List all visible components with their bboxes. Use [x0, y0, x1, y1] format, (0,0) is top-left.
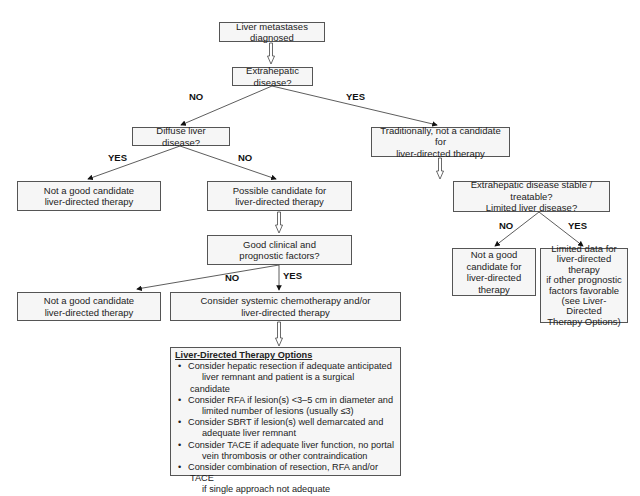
- therapy-option-tace: •Consider TACE if adequate liver functio…: [175, 440, 396, 462]
- node-not-good-3-line1: Not a good: [471, 249, 517, 261]
- therapy-option-sbrt: •Consider SBRT if lesion(s) well demarca…: [175, 417, 396, 439]
- edge-label-factors-yes: YES: [283, 270, 302, 281]
- node-possible-candidate: Possible candidate for liver-directed th…: [207, 181, 352, 211]
- node-not-good-candidate-2: Not a good candidate liver-directed ther…: [17, 292, 161, 321]
- option-line: if single approach not adequate: [190, 484, 330, 494]
- option-line: Consider TACE if adequate liver function…: [188, 440, 394, 450]
- node-not-good-3-line2: candidate for: [467, 261, 522, 273]
- node-not-good-1-line2: liver-directed therapy: [45, 196, 134, 208]
- node-traditionally-line1: Traditionally, not a candidate for: [375, 125, 506, 148]
- therapy-options-box: Liver-Directed Therapy Options •Consider…: [170, 347, 401, 476]
- node-stable-line1: Extrahepatic disease stable / treatable?: [457, 179, 606, 202]
- node-not-good-2-line1: Not a good candidate: [44, 295, 134, 307]
- option-line: Consider hepatic resection if adequate a…: [188, 361, 392, 371]
- option-line: limited number of lesions (usually ≤3): [190, 406, 354, 416]
- node-consider-systemic: Consider systemic chemotherapy and/or li…: [170, 292, 401, 321]
- node-consider-systemic-line1: Consider systemic chemotherapy and/or: [200, 295, 370, 307]
- node-possible-line2: liver-directed therapy: [235, 196, 324, 208]
- node-traditionally: Traditionally, not a candidate for liver…: [371, 127, 510, 157]
- node-possible-line1: Possible candidate for: [233, 185, 326, 197]
- node-diffuse-question: Diffuse liver disease?: [132, 127, 230, 146]
- node-good-factors-question: Good clinical and prognostic factors?: [207, 235, 352, 265]
- option-line: Consider combination of resection, RFA a…: [188, 462, 378, 483]
- bullet-icon: •: [178, 462, 188, 473]
- option-line: liver remnant and patient is a surgical …: [190, 372, 354, 393]
- node-not-good-3-line4: therapy: [478, 284, 510, 296]
- node-extrahepatic-question: Extrahepatic disease?: [232, 67, 313, 86]
- node-stable-line2: Limited liver disease?: [486, 202, 577, 214]
- node-good-factors-line1: Good clinical and: [243, 239, 316, 251]
- therapy-options-title: Liver-Directed Therapy Options: [175, 350, 396, 361]
- edge-label-diffuse-yes: YES: [108, 152, 127, 163]
- edge-label-diffuse-no: NO: [238, 152, 252, 163]
- option-line: adequate liver remnant: [190, 428, 296, 438]
- edge-label-extrahepatic-no: NO: [189, 91, 203, 102]
- node-limited-line6: (see Liver-Directed: [544, 296, 624, 317]
- therapy-option-resection: •Consider hepatic resection if adequate …: [175, 361, 396, 395]
- option-line: vein thrombosis or other contraindicatio…: [190, 451, 367, 461]
- node-not-good-3-line3: liver-directed: [467, 272, 521, 284]
- node-extrahepatic-question-text: Extrahepatic disease?: [236, 65, 309, 88]
- node-not-good-1-line1: Not a good candidate: [44, 185, 134, 197]
- node-limited-data: Limited data for liver-directed therapy …: [540, 248, 628, 323]
- edge-label-extrahepatic-yes: YES: [346, 91, 365, 102]
- bullet-icon: •: [178, 417, 188, 428]
- node-consider-systemic-line2: liver-directed therapy: [241, 307, 330, 319]
- node-limited-line7: Therapy Options): [547, 317, 620, 327]
- edge-label-factors-no: NO: [225, 272, 239, 283]
- node-limited-line4: if other prognostic: [546, 275, 622, 285]
- node-start-text: Liver metastases diagnosed: [223, 21, 321, 44]
- node-good-factors-line2: prognostic factors?: [239, 250, 319, 262]
- edge-label-stable-yes: YES: [568, 220, 587, 231]
- node-diffuse-question-text: Diffuse liver disease?: [136, 125, 226, 148]
- node-not-good-candidate-3: Not a good candidate for liver-directed …: [452, 248, 536, 296]
- node-not-good-candidate-1: Not a good candidate liver-directed ther…: [17, 181, 161, 211]
- option-line: Consider SBRT if lesion(s) well demarcat…: [188, 417, 383, 427]
- node-not-good-2-line2: liver-directed therapy: [45, 307, 134, 319]
- node-traditionally-line2: liver-directed therapy: [396, 148, 485, 160]
- option-line: Consider RFA if lesion(s) <3–5 cm in dia…: [188, 395, 393, 405]
- bullet-icon: •: [178, 440, 188, 451]
- node-stable-question: Extrahepatic disease stable / treatable?…: [453, 181, 610, 212]
- edge-label-stable-no: NO: [499, 220, 513, 231]
- therapy-option-combination: •Consider combination of resection, RFA …: [175, 462, 396, 496]
- bullet-icon: •: [178, 361, 188, 372]
- bullet-icon: •: [178, 395, 188, 406]
- therapy-option-rfa: •Consider RFA if lesion(s) <3–5 cm in di…: [175, 395, 396, 417]
- node-start: Liver metastases diagnosed: [219, 22, 325, 42]
